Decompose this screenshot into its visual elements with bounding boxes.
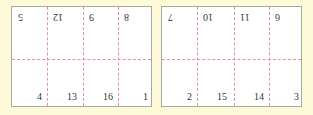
page-number: 15 [217, 91, 227, 102]
page-number: 1 [143, 91, 148, 102]
page-number-inverted: 7 [168, 12, 173, 23]
page-number: 16 [103, 91, 113, 102]
page-panel: 12 [47, 7, 82, 57]
page-panel: 6 [269, 7, 304, 57]
page-panel: 13 [47, 59, 82, 109]
page-panel: 16 [83, 59, 118, 109]
page-number-inverted: 5 [18, 12, 23, 23]
page-panel: 9 [83, 7, 118, 57]
page-number: 2 [187, 91, 192, 102]
page-number-inverted: 9 [89, 12, 94, 23]
page-panel: 15 [197, 59, 232, 109]
page-panel: 11 [234, 7, 269, 57]
page-number: 4 [37, 91, 42, 102]
page-panel: 10 [197, 7, 232, 57]
page-number: 13 [67, 91, 77, 102]
page-panel: 8 [118, 7, 153, 57]
page-number-inverted: 8 [124, 12, 129, 23]
page-panel: 3 [269, 59, 304, 109]
page-panel: 14 [234, 59, 269, 109]
page-panel: 7 [162, 7, 197, 57]
page-panel: 4 [12, 59, 47, 109]
page-panel: 1 [118, 59, 153, 109]
page-panel: 5 [12, 7, 47, 57]
page-number-inverted: 11 [240, 12, 250, 23]
page-number: 14 [254, 91, 264, 102]
imposition-sheet-right: 7 10 11 6 2 15 14 3 [161, 6, 302, 107]
page-number-inverted: 6 [275, 12, 280, 23]
imposition-sheet-left: 5 12 9 8 4 13 16 1 [11, 6, 152, 107]
page-number: 3 [294, 91, 299, 102]
page-number-inverted: 10 [203, 12, 213, 23]
page-panel: 2 [162, 59, 197, 109]
page-number-inverted: 12 [53, 12, 63, 23]
